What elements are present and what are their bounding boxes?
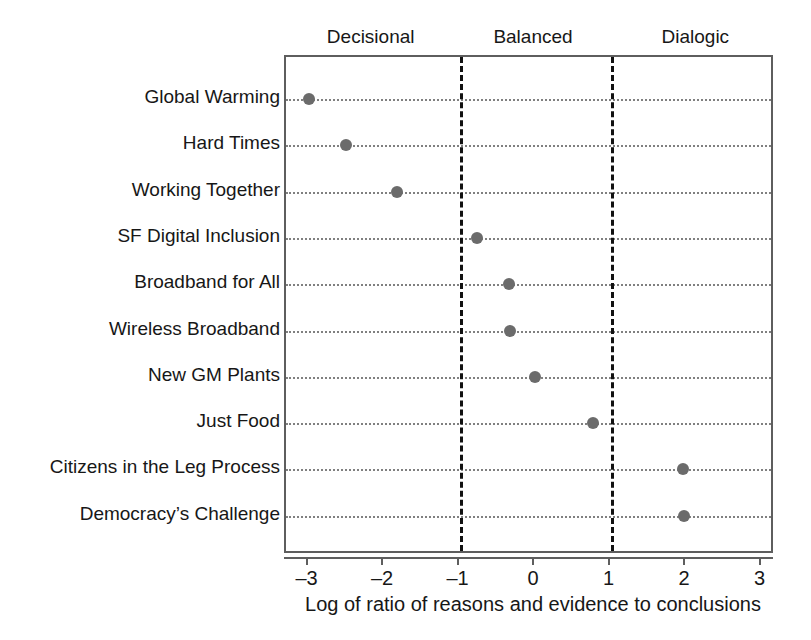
x-tick — [306, 557, 308, 565]
x-tick-label: 2 — [664, 566, 704, 590]
x-tick-label: –2 — [362, 566, 402, 590]
guide-line — [286, 516, 771, 518]
data-point — [678, 510, 690, 522]
x-tick-label: 1 — [589, 566, 629, 590]
data-point — [677, 463, 689, 475]
x-axis-line — [284, 557, 773, 559]
category-label: Wireless Broadband — [109, 318, 280, 340]
guide-line — [286, 99, 771, 101]
data-point — [303, 93, 315, 105]
x-tick-label: –3 — [287, 566, 327, 590]
x-tick — [683, 557, 685, 565]
guide-line — [286, 331, 771, 333]
category-label: SF Digital Inclusion — [117, 225, 280, 247]
data-point — [471, 232, 483, 244]
x-tick-label: –1 — [438, 566, 478, 590]
guide-line — [286, 469, 771, 471]
category-label: Hard Times — [183, 132, 280, 154]
threshold-line-neg1 — [460, 57, 463, 551]
data-point — [504, 325, 516, 337]
guide-line — [286, 238, 771, 240]
guide-line — [286, 284, 771, 286]
dot-plot-figure: DecisionalBalancedDialogic Global Warmin… — [0, 0, 811, 640]
data-point — [340, 139, 352, 151]
x-tick — [457, 557, 459, 565]
band-label-dialogic: Dialogic — [595, 26, 795, 48]
category-label: Citizens in the Leg Process — [50, 456, 280, 478]
threshold-line-1 — [611, 57, 614, 551]
x-tick — [381, 557, 383, 565]
category-label: Democracy’s Challenge — [80, 503, 280, 525]
x-tick — [759, 557, 761, 565]
category-label: Broadband for All — [134, 271, 280, 293]
x-tick — [532, 557, 534, 565]
guide-line — [286, 145, 771, 147]
category-label: New GM Plants — [148, 364, 280, 386]
category-label: Just Food — [197, 410, 280, 432]
x-tick — [608, 557, 610, 565]
category-label: Working Together — [132, 179, 280, 201]
guide-line — [286, 423, 771, 425]
x-tick-label: 0 — [513, 566, 553, 590]
data-point — [587, 417, 599, 429]
data-point — [503, 278, 515, 290]
x-axis-title: Log of ratio of reasons and evidence to … — [128, 592, 811, 616]
data-point — [529, 371, 541, 383]
category-label: Global Warming — [144, 86, 280, 108]
x-tick-label: 3 — [740, 566, 780, 590]
guide-line — [286, 192, 771, 194]
data-point — [391, 186, 403, 198]
plot-area — [284, 55, 773, 553]
